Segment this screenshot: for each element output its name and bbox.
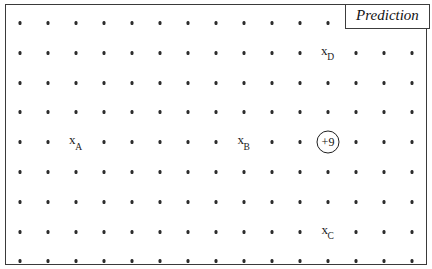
grid-dot: [215, 200, 218, 204]
grid-dot: [159, 140, 162, 144]
grid-dot: [411, 81, 414, 85]
grid-dot: [131, 51, 134, 55]
grid-dot: [327, 110, 330, 114]
grid-dot: [19, 170, 22, 174]
reward-marker: +9: [317, 131, 340, 154]
grid-dot: [47, 230, 50, 234]
grid-dot: [215, 230, 218, 234]
grid-dot: [47, 140, 50, 144]
grid-dot: [19, 200, 22, 204]
prediction-state-space-figure: xAxBxDxC +9 Prediction: [0, 0, 432, 269]
grid-dot: [159, 21, 162, 25]
grid-dot: [159, 51, 162, 55]
grid-dot: [271, 110, 274, 114]
grid-dot: [411, 230, 414, 234]
grid-dot: [327, 259, 330, 263]
grid-dot: [411, 110, 414, 114]
grid-dot: [271, 140, 274, 144]
grid-dot: [355, 259, 358, 263]
grid-dot: [215, 259, 218, 263]
grid-dot: [271, 170, 274, 174]
grid-dot: [383, 200, 386, 204]
grid-dot: [215, 21, 218, 25]
grid-dot: [355, 140, 358, 144]
grid-dot: [75, 230, 78, 234]
grid-dot: [271, 230, 274, 234]
grid-dot: [187, 110, 190, 114]
grid-dot: [383, 51, 386, 55]
grid-dot: [327, 21, 330, 25]
grid-dot: [103, 21, 106, 25]
grid-dot: [103, 259, 106, 263]
grid-dot: [383, 170, 386, 174]
grid-dot: [243, 230, 246, 234]
state-label-x-c: xC: [321, 223, 334, 240]
grid-dot: [383, 230, 386, 234]
grid-dot: [187, 170, 190, 174]
grid-dot: [299, 170, 302, 174]
grid-dot: [243, 259, 246, 263]
grid-dot: [75, 110, 78, 114]
grid-dot: [75, 51, 78, 55]
grid-dot: [299, 200, 302, 204]
grid-dot: [131, 140, 134, 144]
prediction-caption-label: Prediction: [356, 8, 419, 23]
grid-dot: [271, 51, 274, 55]
grid-dot: [411, 170, 414, 174]
grid-dot: [299, 110, 302, 114]
grid-dot: [47, 110, 50, 114]
grid-dot: [327, 170, 330, 174]
grid-dot: [131, 170, 134, 174]
grid-dot: [19, 230, 22, 234]
grid-dot: [19, 51, 22, 55]
grid-dot: [271, 21, 274, 25]
grid-dot: [19, 81, 22, 85]
grid-dot: [215, 51, 218, 55]
grid-dot: [19, 259, 22, 263]
grid-dot: [271, 81, 274, 85]
state-label-subscript: D: [327, 53, 334, 63]
grid-dot: [103, 140, 106, 144]
grid-dot: [383, 110, 386, 114]
grid-dot: [411, 200, 414, 204]
prediction-caption-box: Prediction: [345, 4, 430, 29]
grid-dot: [411, 140, 414, 144]
state-label-subscript: B: [244, 142, 251, 152]
grid-dot: [159, 170, 162, 174]
grid-dot: [103, 81, 106, 85]
grid-dot: [355, 110, 358, 114]
grid-dot: [187, 81, 190, 85]
grid-dot: [187, 51, 190, 55]
grid-dot: [19, 21, 22, 25]
grid-dot: [411, 51, 414, 55]
grid-dot: [75, 81, 78, 85]
grid-dot: [215, 170, 218, 174]
grid-dot: [187, 140, 190, 144]
grid-dot: [243, 81, 246, 85]
grid-dot: [131, 230, 134, 234]
grid-dot: [383, 81, 386, 85]
grid-dot: [271, 200, 274, 204]
grid-dot: [243, 21, 246, 25]
grid-dot: [159, 81, 162, 85]
grid-dot: [19, 140, 22, 144]
grid-dot: [159, 110, 162, 114]
grid-dot: [47, 259, 50, 263]
grid-dot: [47, 21, 50, 25]
grid-dot: [75, 200, 78, 204]
grid-dot: [299, 230, 302, 234]
grid-dot: [355, 230, 358, 234]
grid-dot: [187, 230, 190, 234]
grid-dot: [187, 259, 190, 263]
grid-dot: [103, 51, 106, 55]
grid-dot: [299, 51, 302, 55]
state-label-subscript: C: [328, 232, 335, 242]
grid-dot: [355, 51, 358, 55]
grid-dot: [103, 200, 106, 204]
grid-dot: [355, 81, 358, 85]
grid-dot: [75, 21, 78, 25]
grid-dot: [355, 200, 358, 204]
grid-dot: [299, 140, 302, 144]
grid-dot: [299, 21, 302, 25]
grid-dot: [187, 21, 190, 25]
